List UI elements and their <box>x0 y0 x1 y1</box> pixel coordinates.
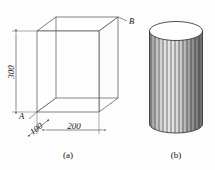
dim-depth-text: 100 <box>28 120 45 136</box>
caption-panel-a: (a) <box>63 150 73 160</box>
panel-b-cylinder-figure: (b) <box>150 22 203 161</box>
point-label-a: A <box>18 111 25 121</box>
label-a-leader-line <box>29 112 37 119</box>
panel-a-box-figure: B A 300 200 100 (a) <box>6 16 134 161</box>
caption-panel-b: (b) <box>171 150 182 160</box>
cylinder-top-ellipse <box>150 22 203 41</box>
dim-height-text: 300 <box>6 65 16 80</box>
point-label-b: B <box>129 16 134 26</box>
label-b-leader-line <box>118 17 127 21</box>
dim-width-text: 200 <box>67 121 81 131</box>
figure-container: B A 300 200 100 (a) <box>0 0 215 170</box>
engineering-figure-svg: B A 300 200 100 (a) <box>0 0 215 170</box>
box-front-face <box>37 31 99 112</box>
